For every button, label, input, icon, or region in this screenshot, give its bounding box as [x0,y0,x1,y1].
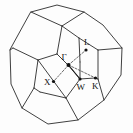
zone-outer-silhouette [10,5,122,124]
symmetry-point-L [84,48,87,51]
symmetry-label-W: W [77,82,86,92]
symmetry-label-K: K [92,81,99,91]
symmetry-point-W [78,77,81,80]
symmetry-point-gamma [67,63,71,67]
symmetry-label-gamma: Γ [62,52,67,62]
symmetry-label-X: X [44,77,51,87]
brillouin-zone-figure: ΓLXWK [0,0,133,133]
brillouin-zone-canvas: ΓLXWK [0,0,133,133]
symmetry-point-K [94,76,97,79]
symmetry-label-L: L [84,37,90,47]
symmetry-point-X [52,80,55,83]
